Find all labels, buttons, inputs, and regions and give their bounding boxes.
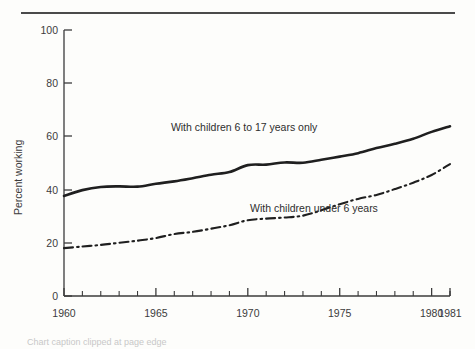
series-line-children-6-to-17 [64,126,450,196]
y-axis-ticks [64,30,72,296]
x-tick-label-1965: 1965 [144,307,168,319]
y-axis-title: Percent working [12,140,24,215]
line-chart: 100 80 60 40 20 0 Percent working 196019… [0,0,475,330]
x-tick-label-1975: 1975 [328,307,352,319]
x-tick-label-1981: 1981 [438,307,462,319]
series-label-children-under-6: With children under 6 years [250,202,378,214]
series-label-children-6-to-17: With children 6 to 17 years only [171,121,318,133]
clipped-footer-caption: Chart caption clipped at page edge [27,338,447,349]
clipped-footer-text: Chart caption clipped at page edge [27,338,447,348]
y-tick-label-60: 60 [46,130,58,142]
x-axis-tick-labels: 196019651970197519801981 [52,307,462,319]
y-tick-label-80: 80 [46,77,58,89]
y-tick-label-100: 100 [40,24,58,36]
y-tick-label-0: 0 [52,290,58,302]
x-axis-major-ticks [64,288,450,296]
y-tick-label-20: 20 [46,237,58,249]
x-tick-label-1970: 1970 [236,307,260,319]
x-tick-label-1960: 1960 [52,307,76,319]
chart-page: 100 80 60 40 20 0 Percent working 196019… [0,0,475,349]
y-tick-label-40: 40 [46,184,58,196]
